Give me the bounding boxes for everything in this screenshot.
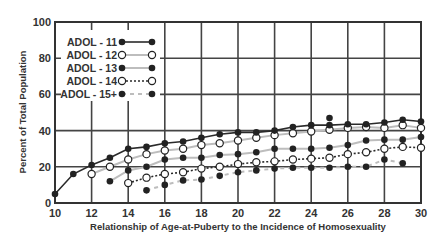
x-tick-label: 14 bbox=[122, 207, 135, 219]
x-tick-label: 24 bbox=[305, 207, 318, 219]
filled-circle-marker bbox=[418, 118, 425, 125]
y-tick-label: 60 bbox=[39, 88, 51, 100]
filled-circle-marker bbox=[345, 121, 352, 128]
x-tick-label: 28 bbox=[378, 207, 390, 219]
legend: ADOL - 11ADOL - 12ADOL - 13ADOL - 14ADOL… bbox=[60, 30, 160, 101]
y-axis-label: Percent of Total Population bbox=[17, 50, 28, 173]
filled-circle-marker bbox=[235, 129, 242, 136]
open-circle-marker bbox=[198, 141, 205, 148]
open-circle-marker bbox=[125, 179, 132, 186]
filled-circle-marker bbox=[162, 182, 169, 189]
legend-label: ADOL - 13 bbox=[66, 62, 117, 74]
filled-circle-marker bbox=[162, 140, 169, 147]
x-tick-label: 16 bbox=[159, 207, 171, 219]
open-circle-marker bbox=[118, 77, 125, 84]
y-tick-label: 0 bbox=[45, 197, 51, 209]
open-circle-marker bbox=[271, 158, 278, 165]
filled-circle-marker bbox=[143, 187, 150, 194]
filled-circle-marker bbox=[149, 65, 156, 72]
open-circle-marker bbox=[363, 149, 370, 156]
x-tick-label: 18 bbox=[195, 207, 207, 219]
open-circle-marker bbox=[216, 163, 223, 170]
filled-circle-marker bbox=[125, 145, 132, 152]
series-line bbox=[110, 137, 421, 181]
legend-label: ADOL - 15+ bbox=[60, 88, 117, 100]
filled-circle-marker bbox=[399, 160, 406, 167]
open-circle-marker bbox=[289, 156, 296, 163]
open-circle-marker bbox=[308, 128, 315, 135]
filled-circle-marker bbox=[271, 127, 278, 134]
filled-circle-marker bbox=[418, 134, 425, 141]
filled-circle-marker bbox=[399, 136, 406, 143]
filled-circle-marker bbox=[88, 162, 95, 169]
y-tick-label: 40 bbox=[39, 125, 51, 137]
filled-circle-marker bbox=[253, 129, 260, 136]
filled-circle-marker bbox=[308, 145, 315, 152]
open-circle-marker bbox=[399, 143, 406, 150]
filled-circle-marker bbox=[290, 145, 297, 152]
open-circle-marker bbox=[253, 159, 260, 166]
open-circle-marker bbox=[143, 151, 150, 158]
filled-circle-marker bbox=[308, 164, 315, 171]
open-circle-marker bbox=[417, 124, 424, 131]
filled-circle-marker bbox=[290, 164, 297, 171]
open-circle-marker bbox=[148, 51, 155, 58]
open-circle-marker bbox=[161, 170, 168, 177]
open-circle-marker bbox=[289, 130, 296, 137]
y-tick-label: 20 bbox=[39, 161, 51, 173]
series-adol-13 bbox=[107, 134, 425, 185]
filled-circle-marker bbox=[363, 121, 370, 128]
filled-circle-marker bbox=[198, 176, 205, 183]
legend-label: ADOL - 12 bbox=[66, 49, 117, 61]
filled-circle-marker bbox=[363, 164, 370, 171]
filled-circle-marker bbox=[381, 156, 388, 163]
open-circle-marker bbox=[344, 151, 351, 158]
filled-circle-marker bbox=[125, 167, 132, 174]
legend-label: ADOL - 14 bbox=[66, 75, 117, 87]
open-circle-marker bbox=[161, 147, 168, 154]
open-circle-marker bbox=[88, 170, 95, 177]
filled-circle-marker bbox=[363, 137, 370, 144]
filled-circle-marker bbox=[52, 191, 59, 198]
filled-circle-marker bbox=[143, 144, 150, 151]
filled-circle-marker bbox=[149, 91, 156, 98]
open-circle-marker bbox=[180, 169, 187, 176]
open-circle-marker bbox=[125, 156, 132, 163]
filled-circle-marker bbox=[180, 177, 187, 184]
filled-circle-marker bbox=[381, 136, 388, 143]
x-tick-label: 20 bbox=[232, 207, 244, 219]
filled-circle-marker bbox=[253, 167, 260, 174]
filled-circle-marker bbox=[70, 171, 77, 178]
filled-circle-marker bbox=[107, 178, 114, 185]
x-tick-label: 26 bbox=[342, 207, 354, 219]
x-tick-label: 22 bbox=[268, 207, 280, 219]
filled-circle-marker bbox=[107, 154, 114, 161]
filled-circle-marker bbox=[253, 149, 260, 156]
x-axis-label: Relationship of Age-at-Puberty to the In… bbox=[90, 221, 386, 232]
x-tick-label: 30 bbox=[415, 207, 427, 219]
x-tick-label: 12 bbox=[85, 207, 97, 219]
filled-circle-marker bbox=[180, 154, 187, 161]
filled-circle-marker bbox=[119, 39, 126, 46]
y-tick-label: 80 bbox=[39, 52, 51, 64]
filled-circle-marker bbox=[345, 164, 352, 171]
filled-circle-marker bbox=[345, 142, 352, 149]
filled-circle-marker bbox=[271, 165, 278, 172]
filled-circle-marker bbox=[235, 169, 242, 176]
filled-circle-marker bbox=[119, 91, 126, 98]
open-circle-marker bbox=[143, 174, 150, 181]
filled-circle-marker bbox=[149, 39, 156, 46]
open-circle-marker bbox=[216, 140, 223, 147]
open-circle-marker bbox=[118, 51, 125, 58]
open-circle-marker bbox=[234, 137, 241, 144]
open-circle-marker bbox=[417, 144, 424, 151]
filled-circle-marker bbox=[216, 173, 223, 180]
filled-circle-marker bbox=[180, 138, 187, 145]
filled-circle-marker bbox=[326, 164, 333, 171]
filled-circle-marker bbox=[271, 145, 278, 152]
open-circle-marker bbox=[381, 145, 388, 152]
filled-circle-marker bbox=[216, 131, 223, 138]
filled-circle-marker bbox=[198, 135, 205, 142]
open-circle-marker bbox=[180, 145, 187, 152]
filled-circle-marker bbox=[162, 156, 169, 163]
